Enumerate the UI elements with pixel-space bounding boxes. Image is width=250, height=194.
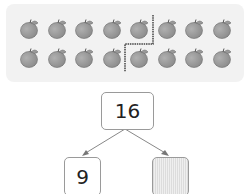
whole-value: 16 bbox=[115, 99, 140, 123]
part-left-value: 9 bbox=[76, 165, 89, 189]
arrow-left bbox=[84, 129, 125, 154]
arrow-right bbox=[125, 129, 167, 154]
part-right-box[interactable] bbox=[152, 157, 189, 194]
part-left-box: 9 bbox=[64, 157, 101, 194]
whole-box: 16 bbox=[101, 92, 154, 130]
